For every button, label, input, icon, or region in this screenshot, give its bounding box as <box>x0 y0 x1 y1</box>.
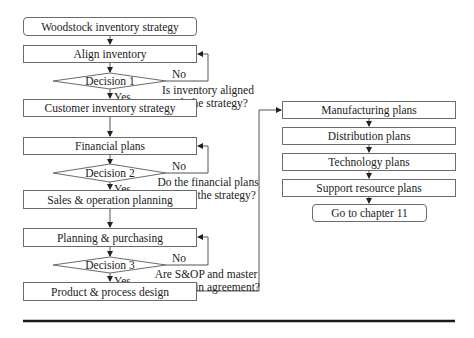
start-node: Woodstock inventory strategy <box>23 17 197 36</box>
start-node-label: Woodstock inventory strategy <box>41 21 179 33</box>
decision-2-label: Decision 2 <box>85 167 135 179</box>
end-node-label: Go to chapter 11 <box>331 207 408 219</box>
end-node: Go to chapter 11 <box>312 204 427 222</box>
step-manufacturing-plans: Manufacturing plans <box>282 101 456 119</box>
decision-1-no: No <box>172 68 186 81</box>
step-sales-operation-planning: Sales & operation planning <box>23 190 197 209</box>
decision-1-label: Decision 1 <box>85 75 135 87</box>
step-customer-inventory-strategy: Customer inventory strategy <box>23 99 197 117</box>
step-technology-plans: Technology plans <box>282 153 456 171</box>
step-distribution-plans: Distribution plans <box>282 127 456 145</box>
step-financial-plans: Financial plans <box>23 137 197 155</box>
step-product-process-design: Product & process design <box>23 282 197 301</box>
decision-3-no: No <box>172 252 186 265</box>
decision-3-label: Decision 3 <box>85 259 135 271</box>
step-planning-purchasing: Planning & purchasing <box>23 228 197 247</box>
step-support-resource-plans: Support resource plans <box>282 179 456 197</box>
decision-2-no: No <box>172 160 186 173</box>
step-align-inventory: Align inventory <box>23 45 197 63</box>
